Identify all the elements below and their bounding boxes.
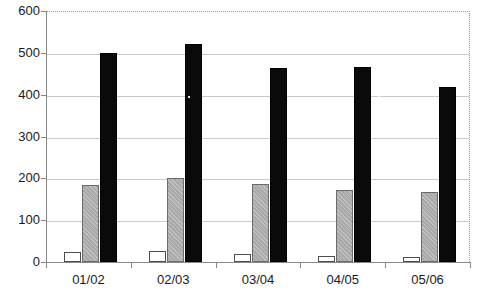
x-axis-tick-mark (216, 262, 217, 268)
bar-black-03-04 (270, 68, 287, 262)
bar-white-01-02 (64, 252, 81, 262)
x-axis-tick-mark (300, 262, 301, 268)
bar-gray-04-05 (336, 190, 353, 262)
y-axis-line (46, 11, 47, 263)
bar-black-02-03 (185, 44, 202, 262)
bar-gray-02-03 (167, 178, 184, 262)
plot-area (46, 11, 470, 262)
bar-white-02-03 (149, 251, 166, 262)
y-axis-tick-label: 600 (6, 4, 40, 17)
x-axis-tick-label: 01/02 (46, 272, 131, 287)
y-axis-tick-mark (41, 95, 46, 96)
bar-gray-05-06 (421, 192, 438, 262)
y-axis-tick-label: 500 (6, 46, 40, 59)
y-axis-tick-mark (41, 220, 46, 221)
bar-chart: 0100200300400500600 01/0202/0303/0404/05… (0, 0, 484, 293)
y-axis-ticks: 0100200300400500600 (0, 0, 40, 293)
bar-black-04-05 (354, 67, 371, 262)
x-axis-tick-mark (385, 262, 386, 268)
y-axis-tick-mark (41, 11, 46, 12)
y-axis-tick-label: 100 (6, 213, 40, 226)
y-axis-tick-mark (41, 53, 46, 54)
y-axis-tick-label: 300 (6, 130, 40, 143)
x-axis-tick-mark (131, 262, 132, 268)
scan-artifact (378, 96, 380, 98)
x-axis-tick-label: 04/05 (300, 272, 385, 287)
bar-white-03-04 (234, 254, 251, 262)
x-axis-tick-mark (470, 262, 471, 268)
x-axis-tick-label: 03/04 (216, 272, 301, 287)
bar-black-05-06 (439, 87, 456, 262)
x-axis-tick-label: 05/06 (385, 272, 470, 287)
y-axis-tick-label: 200 (6, 171, 40, 184)
y-axis-tick-label: 400 (6, 88, 40, 101)
y-axis-tick-mark (41, 137, 46, 138)
bar-black-01-02 (100, 53, 117, 262)
x-axis-tick-mark (46, 262, 47, 268)
y-axis-tick-label: 0 (6, 255, 40, 268)
bar-gray-01-02 (82, 185, 99, 262)
scan-artifact (188, 96, 190, 98)
x-axis-tick-label: 02/03 (131, 272, 216, 287)
scan-artifact (435, 102, 437, 104)
bar-gray-03-04 (252, 184, 269, 262)
x-axis-line (46, 262, 471, 263)
y-axis-tick-mark (41, 178, 46, 179)
